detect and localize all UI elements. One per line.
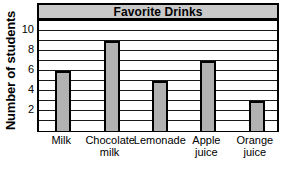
y-tick-label: 6	[28, 64, 34, 75]
bar	[200, 61, 216, 131]
bar-slot	[136, 21, 184, 131]
chart-frame: Favorite Drinks	[37, 3, 279, 132]
x-tick-label: Chocolate milk	[85, 134, 133, 158]
y-tick-label: 4	[28, 84, 34, 95]
y-tick-label: 2	[28, 104, 34, 115]
plot-area	[39, 21, 277, 131]
bar-chart: Number of students 246810 Favorite Drink…	[0, 0, 282, 172]
bar-slot	[87, 21, 135, 131]
x-axis-tick-labels: MilkChocolate milkLemonadeApple juiceOra…	[37, 134, 279, 170]
bar	[152, 81, 168, 131]
x-tick-label: Milk	[37, 134, 85, 146]
bar-slot	[39, 21, 87, 131]
x-tick-label: Lemonade	[134, 134, 182, 146]
y-tick-label: 8	[28, 44, 34, 55]
y-axis-tick-labels: 246810	[18, 19, 36, 132]
x-tick-label: Orange juice	[231, 134, 279, 158]
bar	[249, 101, 265, 131]
bar	[104, 41, 120, 131]
chart-title-band: Favorite Drinks	[39, 5, 277, 21]
bar-slot	[184, 21, 232, 131]
bars-layer	[39, 21, 277, 131]
bar-slot	[233, 21, 277, 131]
y-axis-title-label: Number of students	[4, 10, 19, 129]
x-tick-label: Apple juice	[182, 134, 230, 158]
chart-title: Favorite Drinks	[114, 6, 203, 18]
bar	[55, 71, 71, 131]
y-tick-label: 10	[22, 24, 34, 35]
